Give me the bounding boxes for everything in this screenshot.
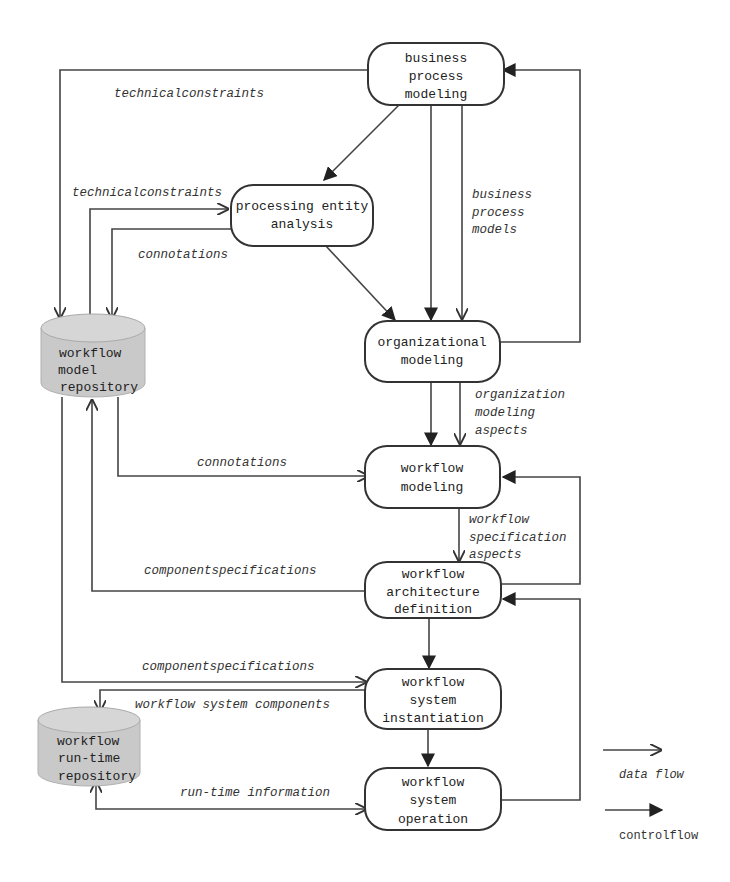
data-edge-component-specifications-lower (62, 397, 366, 682)
node-label-line: system (410, 793, 457, 808)
edge-label-connotations-upper: connotations (138, 248, 228, 262)
node-label-line: definition (394, 602, 472, 617)
edge-label-organization-modeling-aspects: organization (475, 388, 565, 402)
edge-label-connotations-lower: connotations (197, 456, 287, 470)
node-workflow-modeling[interactable]: workflow modeling (365, 446, 500, 508)
node-organizational-modeling[interactable]: organizational modeling (365, 321, 500, 382)
edge-label-workflow-specification-aspects: aspects (469, 548, 522, 562)
edge-label-workflow-specification-aspects: specification (469, 531, 567, 545)
repository-label-line: workflow (59, 346, 122, 361)
repository-label-line: run-time (58, 751, 120, 766)
node-workflow-system-operation[interactable]: workflow system operation (365, 768, 501, 830)
edge-label-runtime-information: run-time information (180, 786, 330, 800)
edge-label-workflow-specification-aspects: workflow (469, 513, 531, 527)
node-label-line: workflow (402, 775, 465, 790)
node-workflow-architecture-definition[interactable]: workflow architecture definition (365, 562, 501, 618)
edge-label-technical-constraints-mid: technicalconstraints (72, 186, 222, 200)
node-label-line: organizational (377, 335, 486, 350)
node-label-line: operation (398, 812, 468, 827)
node-label-line: modeling (401, 480, 463, 495)
edge-label-component-specifications-lower: componentspecifications (142, 660, 315, 674)
node-label-line: workflow (402, 567, 465, 582)
node-label-line: modeling (405, 87, 467, 102)
edge-label-component-specifications-upper: componentspecifications (144, 564, 317, 578)
edge-label-technical-constraints-top: technicalconstraints (114, 87, 264, 101)
edge-label-business-process-models: process (471, 206, 525, 220)
control-edge-pea-to-org (325, 245, 395, 320)
control-edge-bpm-to-pea (324, 104, 400, 180)
node-label-line: business (405, 51, 467, 66)
node-label-line: workflow (402, 675, 465, 690)
repository-label-line: workflow (57, 734, 120, 749)
node-label-line: instantiation (382, 711, 483, 726)
repository-workflow-runtime[interactable]: workflow run-time repository (38, 707, 140, 786)
node-label-line: modeling (401, 353, 463, 368)
workflow-process-diagram: business process modeling processing ent… (0, 0, 730, 882)
legend: data flow controlflow (603, 750, 699, 843)
edge-label-business-process-models: business (472, 188, 532, 202)
edge-label-business-process-models: models (472, 223, 517, 237)
edge-label-organization-modeling-aspects: modeling (475, 406, 536, 420)
control-edge-op-feedback-to-arch (500, 599, 580, 800)
node-label-line: process (409, 69, 464, 84)
node-business-process-modeling[interactable]: business process modeling (368, 43, 504, 105)
edge-label-organization-modeling-aspects: aspects (475, 424, 528, 438)
data-edge-component-specifications-upper (92, 400, 365, 591)
repository-label-line: repository (60, 380, 138, 395)
node-workflow-system-instantiation[interactable]: workflow system instantiation (365, 669, 501, 729)
data-edge-connotations-upper (112, 229, 232, 318)
node-processing-entity-analysis[interactable]: processing entity analysis (231, 185, 373, 246)
data-edge-technical-constraints-mid (90, 209, 228, 318)
node-label-line: workflow (401, 461, 464, 476)
edge-label-workflow-system-components: workflow system components (135, 698, 330, 712)
node-label-line: system (410, 693, 457, 708)
node-label-line: processing entity (236, 199, 369, 214)
repository-label-line: model (58, 363, 97, 378)
repository-workflow-model[interactable]: workflow model repository (41, 314, 145, 397)
repository-label-line: repository (58, 769, 136, 784)
legend-control-flow-label: controlflow (619, 829, 699, 843)
node-label-line: analysis (271, 217, 333, 232)
node-label-line: architecture (386, 585, 480, 600)
legend-data-flow-label: data flow (619, 768, 685, 782)
